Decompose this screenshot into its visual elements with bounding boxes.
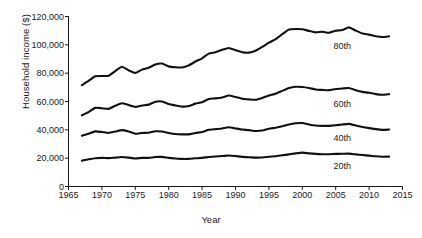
axes: [65, 16, 403, 190]
x-axis-title: Year: [0, 214, 422, 225]
y-axis-tick-marks: [65, 17, 69, 187]
series-label-20th: 20th: [334, 161, 352, 171]
series-line-20th: [82, 153, 389, 161]
series-label-40th: 40th: [334, 133, 352, 143]
income-percentile-chart: Household income ($) 020,00040,00060,000…: [0, 0, 422, 238]
series-line-80th: [82, 27, 389, 85]
series-label-80th: 80th: [334, 41, 352, 51]
series-label-60th: 60th: [334, 99, 352, 109]
x-tick-label: 2015: [383, 190, 422, 200]
plot-area: [0, 0, 422, 238]
